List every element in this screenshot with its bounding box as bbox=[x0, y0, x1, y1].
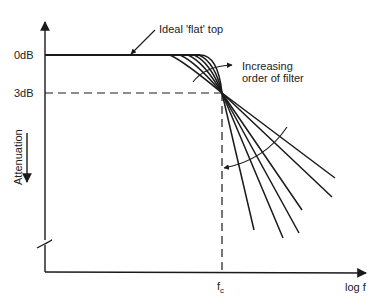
ideal-top-label: Ideal 'flat' top bbox=[159, 23, 223, 35]
increasing-order-label: Increasing order of filter bbox=[242, 60, 308, 84]
y-axis bbox=[37, 22, 52, 272]
cutoff-sub: c bbox=[220, 286, 224, 295]
three-db-label: 3dB bbox=[14, 87, 34, 99]
increasing-order-arc-bottom bbox=[224, 127, 287, 168]
cutoff-label: fc bbox=[217, 280, 224, 297]
filter-response-diagram bbox=[0, 0, 382, 307]
x-axis-label: log f bbox=[345, 281, 366, 293]
x-axis bbox=[45, 272, 366, 273]
zero-db-label: 0dB bbox=[14, 49, 34, 61]
y-axis-label: Attenuation bbox=[12, 129, 24, 185]
ideal-top-pointer bbox=[131, 30, 155, 54]
